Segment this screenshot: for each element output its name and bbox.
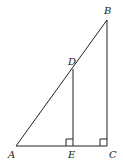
label-d: D bbox=[67, 56, 76, 67]
right-angle-marker-c bbox=[100, 139, 107, 146]
label-e: E bbox=[67, 149, 76, 160]
label-c: C bbox=[109, 149, 117, 160]
right-angle-marker-e bbox=[66, 139, 73, 146]
segment-ab bbox=[16, 20, 107, 146]
geometry-diagram: B D A E C bbox=[0, 0, 123, 165]
label-a: A bbox=[7, 149, 15, 160]
label-b: B bbox=[103, 5, 111, 16]
